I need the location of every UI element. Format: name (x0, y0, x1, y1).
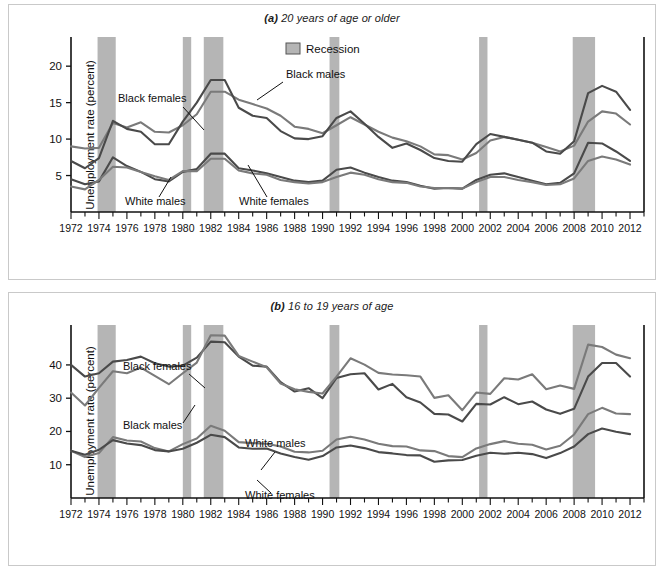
recession-band (204, 325, 224, 498)
y-tick-label: 40 (49, 359, 62, 371)
annotation-leader-white-males (261, 452, 275, 470)
x-tick-label: 1978 (143, 508, 167, 520)
annotation-black-males: Black males (286, 68, 346, 80)
x-tick-label: 1988 (283, 222, 307, 234)
panel-b-title: (b) 16 to 19 years of age (9, 300, 655, 312)
x-tick-label: 1978 (143, 222, 167, 234)
x-tick-label: 2008 (562, 508, 586, 520)
recession-band (479, 325, 487, 498)
panel-a-plot-area: 5101520197219741976197819801982198419861… (71, 37, 644, 242)
x-tick-label: 2012 (618, 508, 642, 520)
panel-b-title-marker: (b) (271, 300, 285, 312)
x-tick-label: 2010 (590, 222, 614, 234)
panel-b-plot-area: 1020304019721974197619781980198219841986… (71, 325, 644, 528)
x-tick-label: 1980 (171, 222, 195, 234)
panel-a-title-marker: (a) (264, 12, 278, 24)
x-tick-label: 1994 (367, 222, 391, 234)
x-tick-label: 1998 (423, 508, 447, 520)
x-tick-label: 1976 (115, 508, 139, 520)
panel-a-title: (a) 20 years of age or older (9, 12, 655, 24)
recession-band (479, 37, 487, 212)
x-tick-label: 1972 (59, 222, 83, 234)
annotation-leader-white-females (248, 165, 267, 197)
recession-band (330, 325, 340, 498)
x-tick-label: 2010 (590, 508, 614, 520)
recession-band (204, 37, 224, 212)
x-tick-label: 1974 (87, 508, 111, 520)
x-tick-label: 2012 (618, 222, 642, 234)
series-line-white-females (71, 157, 630, 190)
y-tick-label: 10 (49, 459, 62, 471)
annotation-black-females: Black females (123, 360, 192, 372)
figure-root: (a) 20 years of age or older Unemploymen… (0, 0, 664, 571)
annotation-white-males: White males (245, 437, 306, 449)
y-tick-label: 20 (49, 425, 62, 437)
legend-swatch-recession (286, 43, 300, 54)
x-tick-label: 1990 (311, 222, 335, 234)
panel-a-title-text: 20 years of age or older (278, 12, 400, 24)
x-tick-label: 1984 (227, 508, 251, 520)
y-tick-label: 30 (49, 392, 62, 404)
annotation-leader-black-males (257, 82, 283, 100)
x-tick-label: 1986 (255, 508, 279, 520)
legend-label-recession: Recession (306, 43, 360, 55)
panel-b-16-to-19-years: (b) 16 to 19 years of age Unemployment r… (8, 292, 656, 566)
y-tick-label: 10 (49, 133, 62, 145)
x-tick-label: 1996 (395, 222, 419, 234)
x-tick-label: 2004 (507, 222, 531, 234)
x-tick-label: 1986 (255, 222, 279, 234)
x-tick-label: 1982 (199, 222, 223, 234)
x-tick-label: 1984 (227, 222, 251, 234)
x-tick-label: 1980 (171, 508, 195, 520)
recession-band (183, 325, 191, 498)
x-tick-label: 1998 (423, 222, 447, 234)
x-tick-label: 2004 (507, 508, 531, 520)
x-tick-label: 1982 (199, 508, 223, 520)
annotation-leader-black-females (189, 374, 205, 388)
annotation-white-females: White females (239, 195, 309, 207)
panel-b-title-text: 16 to 19 years of age (285, 300, 394, 312)
x-tick-label: 2006 (534, 222, 558, 234)
x-tick-label: 2002 (479, 222, 503, 234)
annotation-black-males: Black males (123, 419, 183, 431)
x-tick-label: 1990 (311, 508, 335, 520)
x-tick-label: 1996 (395, 508, 419, 520)
series-line-white-males (71, 143, 630, 189)
annotation-black-females: Black females (118, 92, 187, 104)
x-tick-label: 2006 (534, 508, 558, 520)
annotation-white-males: White males (125, 195, 186, 207)
y-tick-label: 5 (56, 170, 62, 182)
x-tick-label: 1988 (283, 508, 307, 520)
x-tick-label: 1994 (367, 508, 391, 520)
x-tick-label: 2000 (451, 222, 475, 234)
x-tick-label: 2008 (562, 222, 586, 234)
y-tick-label: 20 (49, 60, 62, 72)
recession-band (98, 325, 116, 498)
x-tick-label: 2002 (479, 508, 503, 520)
x-tick-label: 1992 (339, 508, 363, 520)
x-tick-label: 1974 (87, 222, 111, 234)
recession-band (573, 37, 595, 212)
series-line-black-males (71, 335, 630, 410)
y-tick-label: 15 (49, 97, 62, 109)
x-tick-label: 1976 (115, 222, 139, 234)
x-tick-label: 2000 (451, 508, 475, 520)
annotation-white-females: White females (245, 489, 315, 501)
x-tick-label: 1992 (339, 222, 363, 234)
panel-a-20-years-and-older: (a) 20 years of age or older Unemploymen… (8, 4, 656, 280)
series-line-white-females (71, 428, 630, 461)
x-tick-label: 1972 (59, 508, 83, 520)
series-line-black-females (71, 342, 630, 422)
